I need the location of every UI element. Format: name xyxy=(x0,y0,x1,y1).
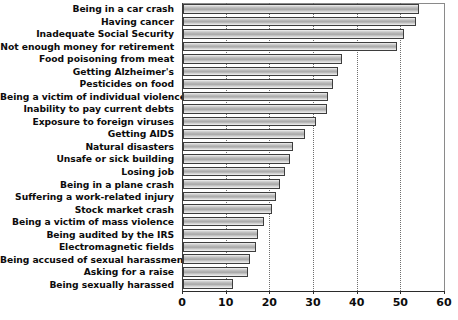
x-tick-mark xyxy=(269,291,270,294)
bar-row xyxy=(183,228,445,240)
category-label: Getting Alzheimer's xyxy=(0,67,174,77)
bar xyxy=(183,167,285,177)
bar-row xyxy=(183,278,445,290)
bar-row xyxy=(183,91,445,103)
bar-row xyxy=(183,103,445,115)
bar xyxy=(183,254,250,264)
category-label: Being audited by the IRS xyxy=(0,230,174,240)
bar-row xyxy=(183,41,445,53)
category-label: Inability to pay current debts xyxy=(0,104,174,114)
bar xyxy=(183,54,342,64)
category-label: Inadequate Social Security xyxy=(0,29,174,39)
bar-row xyxy=(183,191,445,203)
bar xyxy=(183,217,264,227)
category-label: Stock market crash xyxy=(0,205,174,215)
bar xyxy=(183,4,419,14)
plot-area xyxy=(182,3,445,291)
category-label: Asking for a raise xyxy=(0,267,174,277)
bar-row xyxy=(183,241,445,253)
x-tick-mark xyxy=(444,291,445,294)
category-label: Electromagnetic fields xyxy=(0,242,174,252)
category-label: Being a victim of mass violence xyxy=(0,217,174,227)
x-tick-label: 30 xyxy=(293,296,333,309)
bar-row xyxy=(183,78,445,90)
bar-row xyxy=(183,53,445,65)
bar-row xyxy=(183,28,445,40)
bar-row xyxy=(183,216,445,228)
category-label: Being in a plane crash xyxy=(0,180,174,190)
category-label: Food poisoning from meat xyxy=(0,54,174,64)
bar xyxy=(183,192,276,202)
bar xyxy=(183,242,256,252)
bar-row xyxy=(183,253,445,265)
bar-row xyxy=(183,128,445,140)
x-tick-label: 50 xyxy=(380,296,420,309)
bar xyxy=(183,117,316,127)
bar xyxy=(183,179,280,189)
bar xyxy=(183,67,338,77)
x-tick-mark xyxy=(400,291,401,294)
x-tick-mark xyxy=(357,291,358,294)
bar xyxy=(183,154,290,164)
bar xyxy=(183,279,233,289)
bar-row xyxy=(183,116,445,128)
category-label: Unsafe or sick building xyxy=(0,154,174,164)
x-tick-mark xyxy=(182,291,183,294)
bar xyxy=(183,42,397,52)
category-label: Being accused of sexual harassment xyxy=(0,255,174,265)
bar-row xyxy=(183,178,445,190)
category-label: Exposure to foreign viruses xyxy=(0,117,174,127)
bar xyxy=(183,229,258,239)
category-label: Pesticides on food xyxy=(0,79,174,89)
category-label: Being in a car crash xyxy=(0,4,174,14)
bar-row xyxy=(183,153,445,165)
category-label: Suffering a work-related injury xyxy=(0,192,174,202)
bar-row xyxy=(183,16,445,28)
x-tick-mark xyxy=(313,291,314,294)
bar xyxy=(183,29,404,39)
bar xyxy=(183,129,305,139)
category-label: Not enough money for retirement xyxy=(0,42,174,52)
bar-row xyxy=(183,66,445,78)
x-tick-mark xyxy=(226,291,227,294)
bar xyxy=(183,92,328,102)
bar-row xyxy=(183,141,445,153)
bar-row xyxy=(183,266,445,278)
category-label-column: Being in a car crashHaving cancerInadequ… xyxy=(0,3,178,291)
bar xyxy=(183,17,416,27)
x-tick-label: 40 xyxy=(337,296,377,309)
bar xyxy=(183,142,293,152)
x-tick-label: 20 xyxy=(249,296,289,309)
category-label: Losing job xyxy=(0,167,174,177)
bar xyxy=(183,204,272,214)
bar xyxy=(183,267,248,277)
bar-row xyxy=(183,3,445,15)
x-tick-label: 0 xyxy=(162,296,202,309)
bar-row xyxy=(183,203,445,215)
category-label: Having cancer xyxy=(0,17,174,27)
x-tick-label: 10 xyxy=(206,296,246,309)
horizontal-bar-chart: Being in a car crashHaving cancerInadequ… xyxy=(0,0,458,320)
category-label: Natural disasters xyxy=(0,142,174,152)
bar-row xyxy=(183,166,445,178)
category-label: Getting AIDS xyxy=(0,129,174,139)
x-tick-label: 60 xyxy=(424,296,458,309)
category-label: Being sexually harassed xyxy=(0,280,174,290)
category-label: Being a victim of individual violence xyxy=(0,92,174,102)
bar xyxy=(183,79,333,89)
bar xyxy=(183,104,327,114)
